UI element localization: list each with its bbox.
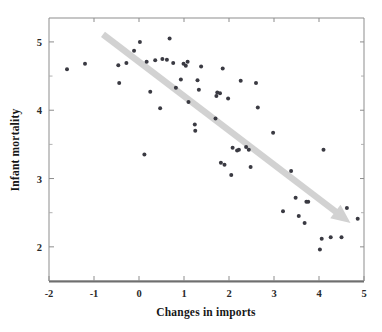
top-axis-ticks <box>94 18 319 22</box>
data-point <box>303 221 307 225</box>
data-point <box>174 86 178 90</box>
data-point <box>148 90 152 94</box>
x-axis-ticks: -2-1012345 <box>45 276 367 299</box>
data-point <box>65 67 69 71</box>
data-point <box>187 100 191 104</box>
data-point <box>116 63 120 67</box>
data-point <box>193 129 197 133</box>
data-point <box>318 248 322 252</box>
data-point <box>184 64 188 68</box>
data-point <box>281 209 285 213</box>
data-point <box>329 235 333 239</box>
data-point <box>306 200 310 204</box>
data-point <box>247 148 251 152</box>
data-point <box>231 146 235 150</box>
data-point <box>199 65 203 69</box>
data-point <box>254 81 258 85</box>
data-point <box>289 169 293 173</box>
chart-figure: -2-1012345 2345 Changes in imports Infan… <box>0 0 382 332</box>
x-tick-label: 1 <box>181 288 186 299</box>
x-tick-label: 2 <box>226 288 231 299</box>
y-tick-label: 3 <box>37 174 42 185</box>
data-point <box>256 105 260 109</box>
data-point <box>218 91 222 95</box>
data-point <box>158 106 162 110</box>
data-point <box>297 214 301 218</box>
data-point <box>271 131 275 135</box>
data-point <box>214 94 218 98</box>
data-point <box>165 58 169 62</box>
x-tick-label: -2 <box>45 288 54 299</box>
data-point <box>322 148 326 152</box>
y-tick-label: 5 <box>37 37 42 48</box>
x-tick-label: 0 <box>136 288 141 299</box>
x-axis-title: Changes in imports <box>156 306 256 319</box>
plot-frame <box>49 18 364 282</box>
data-point <box>186 60 190 64</box>
data-point <box>237 148 241 152</box>
data-point <box>223 163 227 167</box>
data-point <box>145 60 149 64</box>
data-point <box>153 58 157 62</box>
data-point <box>171 61 175 65</box>
data-point <box>340 235 344 239</box>
data-point <box>229 173 233 177</box>
data-point <box>124 61 128 65</box>
data-point <box>219 161 223 165</box>
x-tick-label: 4 <box>316 288 322 299</box>
data-point <box>197 88 201 92</box>
data-point <box>142 153 146 157</box>
x-tick-label: -1 <box>90 288 99 299</box>
y-tick-label: 4 <box>37 105 43 116</box>
data-point <box>226 97 230 101</box>
data-point <box>196 78 200 82</box>
data-point <box>214 116 218 120</box>
data-point <box>117 81 121 85</box>
data-point <box>320 237 324 241</box>
y-axis-ticks: 2345 <box>37 37 54 253</box>
data-point-layer <box>65 36 360 251</box>
x-tick-label: 3 <box>271 288 276 299</box>
trend-arrow-shaft <box>103 34 338 213</box>
data-point <box>160 57 164 61</box>
data-point <box>138 40 142 44</box>
data-point <box>132 49 136 53</box>
data-point <box>239 79 243 83</box>
data-point <box>294 196 298 200</box>
right-axis-ticks <box>360 42 364 247</box>
y-tick-label: 2 <box>37 242 42 253</box>
data-point <box>345 206 349 210</box>
data-point <box>83 62 87 66</box>
x-tick-label: 5 <box>361 288 366 299</box>
downward-trend-arrow-icon <box>103 34 351 223</box>
data-point <box>249 165 253 169</box>
data-point <box>168 36 172 40</box>
data-point <box>356 217 360 221</box>
scatter-plot: -2-1012345 2345 Changes in imports Infan… <box>0 0 382 332</box>
data-point <box>193 123 197 127</box>
data-point <box>221 67 225 71</box>
data-point <box>179 77 183 81</box>
y-axis-title: Infant mortality <box>9 109 22 192</box>
